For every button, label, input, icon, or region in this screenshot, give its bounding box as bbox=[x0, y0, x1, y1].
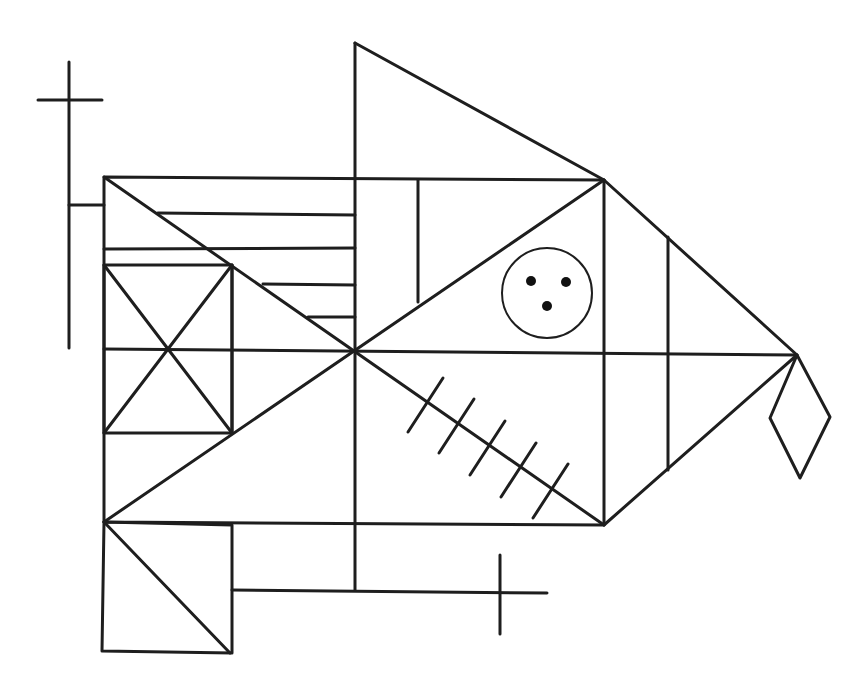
dot-icon bbox=[561, 277, 571, 287]
horizontal-midline bbox=[104, 349, 797, 355]
dot-icon bbox=[542, 301, 552, 311]
five-hatch-marks bbox=[408, 378, 568, 518]
circle bbox=[502, 248, 592, 338]
bottom-square-diagonal bbox=[104, 522, 230, 653]
parallel-line-1 bbox=[158, 213, 355, 215]
parallel-line-3 bbox=[263, 284, 355, 285]
top-triangle-edge bbox=[355, 43, 604, 180]
dot-icon bbox=[526, 276, 536, 286]
complex-figure bbox=[0, 0, 868, 689]
figure-canvas bbox=[0, 0, 868, 689]
diamond bbox=[770, 355, 830, 478]
parallel-line-2 bbox=[104, 248, 355, 249]
